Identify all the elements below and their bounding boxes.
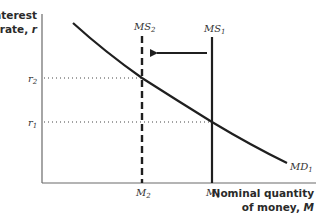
y-axis-title-line2: rate, r [0,23,38,35]
r2-label: r2 [28,73,38,86]
m2-label: M2 [135,187,151,200]
ms2-label: MS2 [133,21,156,34]
y-axis-title: Interest [0,9,37,21]
money-market-diagram: Interest rate, r r2 r1 MS2 MS1 MD1 M2 M1… [0,0,325,219]
x-axis-title: Nominal quantity [212,187,315,199]
md1-curve [73,23,287,163]
md1-label: MD1 [289,161,313,174]
ms1-label: MS1 [203,23,226,36]
r1-label: r1 [28,117,37,130]
x-axis-title-line2: of money, M [242,201,315,213]
